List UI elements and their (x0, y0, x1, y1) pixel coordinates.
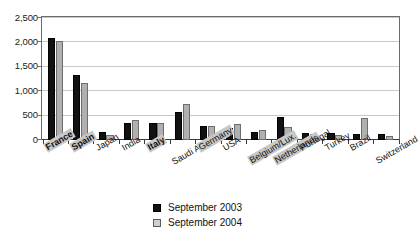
legend-item: September 2004 (153, 215, 303, 230)
x-axis-labels: FranceSpainJapanIndiaItalySaudi ArabiaGe… (0, 142, 410, 204)
bar-group (43, 18, 68, 140)
legend-item: September 2003 (153, 200, 303, 215)
bar-group (348, 18, 373, 140)
bar-group (170, 18, 195, 140)
bar (386, 136, 393, 139)
bar (175, 112, 182, 139)
bar (56, 41, 63, 139)
bar (48, 38, 55, 140)
bars-layer (43, 18, 399, 140)
bar (251, 132, 258, 139)
bar-group (195, 18, 220, 140)
bar (73, 75, 80, 139)
y-axis-tick-label: 500 (22, 110, 38, 120)
legend: September 2003 September 2004 (153, 200, 303, 230)
y-tick-mark (38, 66, 42, 67)
bar-group (144, 18, 169, 140)
legend-label-series-2: September 2004 (168, 218, 242, 228)
bar (81, 83, 88, 139)
y-tick-mark (38, 17, 42, 18)
bar-group (322, 18, 347, 140)
bar (259, 130, 266, 139)
legend-label-series-1: September 2003 (168, 203, 242, 213)
bar (378, 134, 385, 139)
y-axis-tick-label: 1,500 (15, 61, 38, 71)
bar (183, 104, 190, 139)
y-axis-tick-label: 1,000 (15, 86, 38, 96)
y-tick-mark (38, 139, 42, 140)
bar-group (246, 18, 271, 140)
y-tick-mark (38, 115, 42, 116)
legend-swatch-series-1 (153, 204, 161, 212)
y-axis-tick-label: 2,500 (15, 13, 38, 23)
bar-group (297, 18, 322, 140)
bar-group (68, 18, 93, 140)
y-axis-labels: 2,5002,0001,5001,0005000 (0, 0, 38, 141)
y-axis-tick-label: 2,000 (15, 37, 38, 47)
bar-group (221, 18, 246, 140)
bar-group (119, 18, 144, 140)
y-tick-mark (38, 41, 42, 42)
y-tick-mark (38, 90, 42, 91)
bar-group (373, 18, 398, 140)
legend-swatch-series-2 (153, 219, 161, 227)
bar-group (271, 18, 296, 140)
bar-group (93, 18, 118, 140)
